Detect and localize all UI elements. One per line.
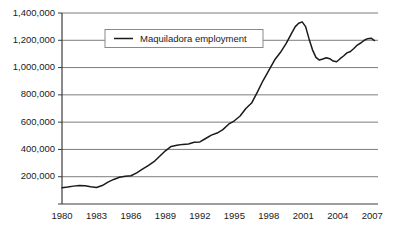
y-tick-label: 800,000: [21, 88, 55, 99]
chart-container: 200,000400,000600,000800,0001,000,0001,2…: [0, 0, 393, 232]
x-tick-label: 2007: [362, 210, 383, 221]
y-tick-label: 1,400,000: [13, 7, 55, 18]
legend: Maquiladora employment: [105, 30, 263, 48]
x-tick-label: 1986: [120, 210, 141, 221]
x-tick-label: 1983: [86, 210, 107, 221]
x-tick-label: 1989: [155, 210, 176, 221]
y-tick-label: 200,000: [21, 170, 55, 181]
y-tick-label: 1,200,000: [13, 34, 55, 45]
y-tick-label: 1,000,000: [13, 61, 55, 72]
x-tick-label: 1992: [189, 210, 210, 221]
y-tick-label: 600,000: [21, 116, 55, 127]
x-tick-label: 1995: [224, 210, 245, 221]
legend-label-maquiladora-employment: Maquiladora employment: [140, 33, 247, 44]
x-tick-label: 1998: [258, 210, 279, 221]
maquiladora-employment-line-chart: 200,000400,000600,000800,0001,000,0001,2…: [0, 0, 393, 232]
x-tick-label: 2004: [327, 210, 348, 221]
x-tick-label: 1980: [51, 210, 72, 221]
x-tick-label: 2001: [293, 210, 314, 221]
y-tick-label: 400,000: [21, 143, 55, 154]
